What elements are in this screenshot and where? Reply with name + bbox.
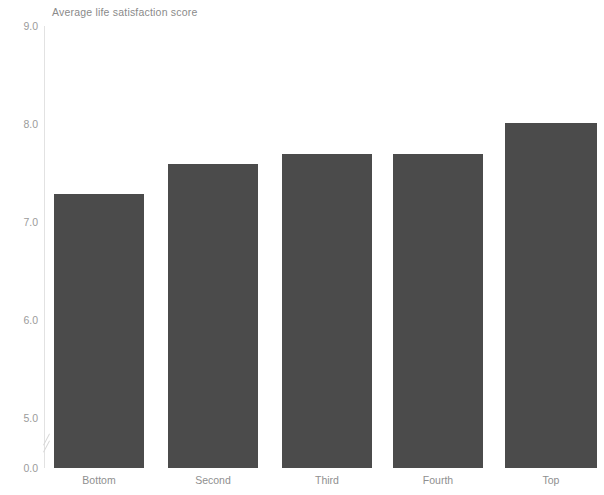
bars-layer — [0, 0, 604, 495]
x-tick-label-third: Third — [315, 474, 339, 486]
x-tick-label-bottom: Bottom — [82, 474, 115, 486]
bar-top[interactable] — [505, 123, 597, 468]
bar-bottom[interactable] — [54, 194, 144, 468]
x-tick-label-second: Second — [195, 474, 231, 486]
bar-third[interactable] — [282, 154, 372, 468]
x-tick-label-fourth: Fourth — [423, 474, 453, 486]
bar-fourth[interactable] — [393, 154, 483, 468]
bar-second[interactable] — [168, 164, 258, 468]
x-tick-label-top: Top — [543, 474, 560, 486]
bar-chart: Average life satisfaction score 9.0 8.0 … — [0, 0, 604, 495]
